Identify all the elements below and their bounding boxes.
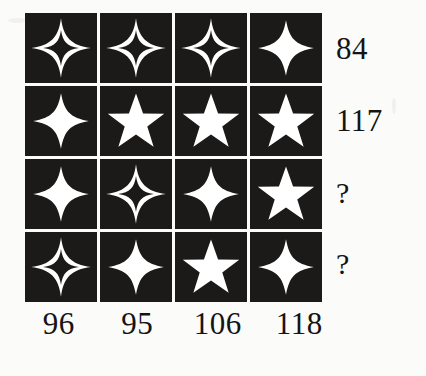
- row-sum-4: ?: [336, 249, 422, 279]
- grid-cell-r3c4[interactable]: [250, 159, 322, 229]
- puzzle-figure: 84 117 ? ? 96 95 106 118: [0, 0, 426, 376]
- column-sum-3: 106: [176, 308, 259, 339]
- column-sum-4: 118: [260, 308, 340, 339]
- four-point-star-solid-icon: [257, 19, 315, 77]
- grid-cell-r2c1[interactable]: [25, 86, 97, 156]
- row-sum-2: 117: [336, 105, 422, 136]
- grid-cell-r1c2[interactable]: [100, 13, 172, 83]
- four-point-star-outline-icon: [105, 163, 167, 225]
- paper-texture-speck: [8, 18, 26, 23]
- five-point-star-solid-icon: [256, 92, 316, 150]
- grid-cell-r1c3[interactable]: [175, 13, 247, 83]
- four-point-star-solid-icon: [32, 92, 90, 150]
- grid-cell-r4c2[interactable]: [100, 232, 172, 302]
- grid-cell-r2c3[interactable]: [175, 86, 247, 156]
- five-point-star-solid-icon: [181, 92, 241, 150]
- row-sum-1: 84: [336, 33, 422, 64]
- five-point-star-solid-icon: [181, 238, 241, 296]
- grid-cell-r1c4[interactable]: [250, 13, 322, 83]
- grid-cell-r2c4[interactable]: [250, 86, 322, 156]
- four-point-star-solid-icon: [182, 165, 240, 223]
- column-sums: 96 95 106 118: [19, 308, 339, 339]
- grid-cell-r4c3[interactable]: [175, 232, 247, 302]
- grid-cell-r4c4[interactable]: [250, 232, 322, 302]
- four-point-star-outline-icon: [105, 17, 167, 79]
- grid-cell-r3c2[interactable]: [100, 159, 172, 229]
- four-point-star-outline-icon: [30, 236, 92, 298]
- grid-cell-r3c3[interactable]: [175, 159, 247, 229]
- five-point-star-solid-icon: [256, 165, 316, 223]
- four-point-star-solid-icon: [32, 165, 90, 223]
- five-point-star-solid-icon: [106, 92, 166, 150]
- four-point-star-solid-icon: [257, 238, 315, 296]
- column-sum-1: 96: [19, 308, 99, 339]
- star-grid: [25, 13, 322, 302]
- grid-cell-r3c1[interactable]: [25, 159, 97, 229]
- four-point-star-outline-icon: [180, 17, 242, 79]
- grid-cell-r1c1[interactable]: [25, 13, 97, 83]
- row-sum-3: ?: [336, 178, 422, 208]
- grid-cell-r4c1[interactable]: [25, 232, 97, 302]
- four-point-star-outline-icon: [30, 17, 92, 79]
- four-point-star-solid-icon: [107, 238, 165, 296]
- column-sum-2: 95: [99, 308, 177, 339]
- grid-cell-r2c2[interactable]: [100, 86, 172, 156]
